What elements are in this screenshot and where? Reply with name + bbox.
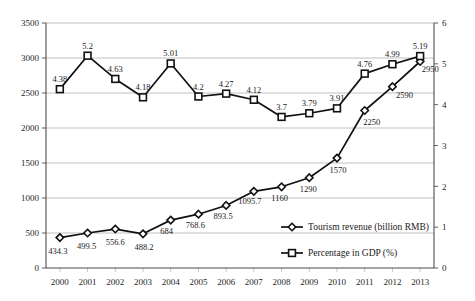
right-tick-label: 0 <box>442 263 447 273</box>
data-point <box>140 94 147 101</box>
x-tick-label: 2011 <box>356 277 374 287</box>
right-tick-label: 5 <box>442 59 447 69</box>
left-tick-label: 1500 <box>21 158 40 168</box>
data-label: 4.27 <box>219 79 234 89</box>
x-tick-label: 2003 <box>134 277 153 287</box>
data-label: 2590 <box>396 90 413 100</box>
left-tick-label: 3500 <box>21 18 40 28</box>
data-label: 4.99 <box>385 49 400 59</box>
data-point <box>195 93 202 100</box>
chart-background <box>0 0 475 301</box>
data-point <box>278 114 285 121</box>
data-point <box>223 90 230 97</box>
data-label: 1095.7 <box>238 196 261 206</box>
right-tick-label: 6 <box>442 18 447 28</box>
data-label: 2250 <box>363 117 380 127</box>
x-tick-label: 2009 <box>300 277 319 287</box>
data-label: 3.91 <box>330 93 345 103</box>
right-tick-label: 1 <box>442 222 447 232</box>
data-point <box>334 105 341 112</box>
right-tick-label: 2 <box>442 182 447 192</box>
data-point <box>167 60 174 67</box>
data-label: 4.76 <box>357 59 372 69</box>
x-tick-label: 2013 <box>411 277 430 287</box>
legend-marker-square <box>289 250 296 257</box>
data-point <box>361 70 368 77</box>
left-tick-label: 1000 <box>21 193 40 203</box>
dual-axis-line-chart: 0500100015002000250030003500 0123456 200… <box>0 0 475 301</box>
data-label: 488.2 <box>134 242 153 252</box>
data-label: 4.63 <box>108 64 123 74</box>
data-label: 556.6 <box>106 237 125 247</box>
data-label: 5.01 <box>163 48 178 58</box>
data-label: 768.6 <box>186 220 205 230</box>
data-point <box>389 61 396 68</box>
data-label: 1570 <box>330 165 347 175</box>
data-label: 5.19 <box>413 41 428 51</box>
data-label: 499.5 <box>77 241 96 251</box>
data-point <box>84 52 91 59</box>
data-label: 3.7 <box>276 102 287 112</box>
data-label: 2950 <box>422 64 439 74</box>
legend-label: Percentage in GDP (%) <box>308 248 397 259</box>
data-point <box>112 76 119 83</box>
legend-label: Tourism revenue (billion RMB) <box>308 222 429 233</box>
chart-container: 0500100015002000250030003500 0123456 200… <box>0 0 475 301</box>
x-tick-label: 2005 <box>189 277 208 287</box>
data-label: 3.79 <box>302 98 317 108</box>
data-point <box>56 86 63 93</box>
data-point <box>250 96 257 103</box>
x-tick-label: 2002 <box>106 277 124 287</box>
data-label: 434.3 <box>48 246 67 256</box>
data-label: 893.5 <box>214 211 233 221</box>
data-label: 4.38 <box>52 74 67 84</box>
x-tick-label: 2010 <box>328 277 347 287</box>
x-tick-label: 2012 <box>383 277 401 287</box>
data-label: 1290 <box>300 184 317 194</box>
x-tick-label: 2001 <box>79 277 97 287</box>
left-tick-label: 2500 <box>21 88 40 98</box>
left-tick-label: 2000 <box>21 123 40 133</box>
data-point <box>306 110 313 117</box>
data-label: 4.18 <box>136 82 151 92</box>
data-point <box>417 53 424 60</box>
data-label: 4.12 <box>246 85 261 95</box>
x-tick-label: 2000 <box>51 277 70 287</box>
left-tick-label: 500 <box>26 228 40 238</box>
right-tick-label: 4 <box>442 100 447 110</box>
x-tick-label: 2004 <box>162 277 181 287</box>
data-label: 4.2 <box>193 82 204 92</box>
right-tick-label: 3 <box>442 141 447 151</box>
x-tick-label: 2007 <box>245 277 264 287</box>
data-label: 1160 <box>271 193 288 203</box>
left-tick-label: 3000 <box>21 53 40 63</box>
data-label: 5.2 <box>82 41 93 51</box>
left-tick-label: 0 <box>35 263 40 273</box>
x-tick-label: 2006 <box>217 277 236 287</box>
x-tick-label: 2008 <box>273 277 292 287</box>
data-label: 684 <box>160 226 174 236</box>
